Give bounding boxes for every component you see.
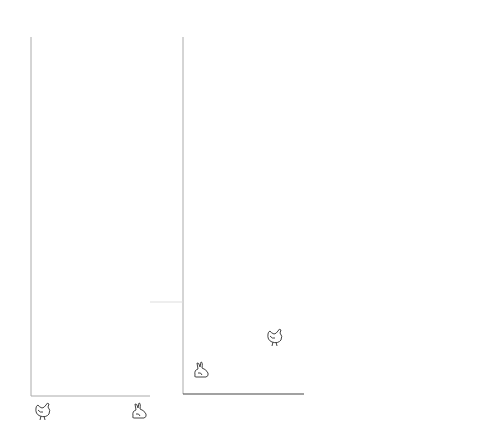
chicken-icon [268,329,282,346]
panel-a-draws [31,37,150,420]
rabbit-icon [195,362,209,377]
panel-b-ratio [150,37,304,394]
chicken-icon [36,403,50,420]
figure [0,0,483,447]
rabbit-icon [133,403,147,418]
